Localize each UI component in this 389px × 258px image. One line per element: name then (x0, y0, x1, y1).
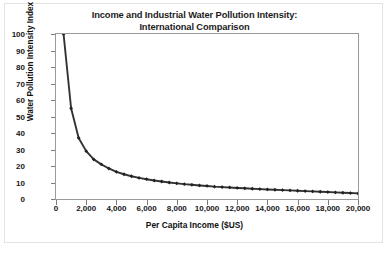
data-line (64, 34, 358, 193)
data-markers (62, 34, 358, 195)
data-point (228, 186, 232, 190)
chart-figure: Income and Industrial Water Pollution In… (4, 3, 383, 243)
y-axis-tick-mark (51, 150, 55, 151)
x-axis-tick-mark (358, 200, 359, 205)
x-axis-tick-mark (237, 200, 238, 205)
data-point (235, 186, 239, 190)
y-axis-tick-label: 20 (0, 162, 25, 171)
data-point (137, 176, 141, 180)
y-axis-tick-label: 0 (0, 195, 25, 204)
data-point (167, 181, 171, 185)
y-axis-tick-mark (51, 34, 55, 35)
data-point (250, 187, 254, 191)
data-point (220, 185, 224, 189)
chart-title: Income and Industrial Water Pollution In… (5, 10, 384, 33)
data-point (333, 191, 337, 195)
data-point (258, 187, 262, 191)
data-point (69, 106, 73, 110)
y-axis-tick-mark (51, 67, 55, 68)
y-axis-label: Water Pollution Intensity Index (26, 0, 35, 142)
x-axis-tick-mark (207, 200, 208, 205)
y-axis-tick-label: 80 (0, 63, 25, 72)
y-axis-tick-mark (51, 183, 55, 184)
y-axis-tick-mark (51, 84, 55, 85)
y-axis-tick-mark (51, 117, 55, 118)
data-point (311, 190, 315, 194)
x-axis-tick-mark (328, 200, 329, 205)
data-point (356, 191, 358, 195)
x-axis-tick-mark (116, 200, 117, 205)
y-axis-tick-mark (51, 100, 55, 101)
data-point (152, 179, 156, 183)
y-axis-tick-mark (51, 133, 55, 134)
data-point (288, 189, 292, 193)
y-axis-tick-mark (51, 51, 55, 52)
data-point (198, 184, 202, 188)
y-axis-tick-label: 60 (0, 96, 25, 105)
series-canvas (56, 34, 358, 199)
data-point (205, 184, 209, 188)
y-axis-tick-label: 40 (0, 129, 25, 138)
data-point (243, 186, 247, 190)
y-axis-tick-label: 90 (0, 46, 25, 55)
data-point (62, 34, 66, 36)
y-axis-tick-mark (51, 166, 55, 167)
x-axis-tick-mark (177, 200, 178, 205)
chart-title-line1: Income and Industrial Water Pollution In… (92, 10, 298, 20)
y-axis-tick-label: 70 (0, 79, 25, 88)
data-point (281, 188, 285, 192)
x-axis-tick-mark (298, 200, 299, 205)
data-point (326, 190, 330, 194)
data-point (303, 189, 307, 193)
data-point (296, 189, 300, 193)
y-axis-tick-label: 100 (0, 30, 25, 39)
data-point (266, 188, 270, 192)
x-axis-label: Per Capita Income ($US) (5, 220, 384, 230)
x-axis-tick-mark (86, 200, 87, 205)
chart-title-line2: International Comparison (5, 22, 384, 34)
y-axis-tick-label: 10 (0, 178, 25, 187)
data-point (190, 183, 194, 187)
data-point (318, 190, 322, 194)
y-axis-tick-mark (51, 199, 55, 200)
data-point (273, 188, 277, 192)
x-axis-tick-mark (56, 200, 57, 205)
data-point (160, 180, 164, 184)
plot-area (55, 33, 359, 200)
data-point (341, 191, 345, 195)
data-point (213, 185, 217, 189)
data-point (145, 177, 149, 181)
y-axis-tick-label: 30 (0, 145, 25, 154)
data-point (182, 182, 186, 186)
x-axis-tick-label: 20,000 (335, 204, 381, 213)
y-axis-tick-label: 50 (0, 112, 25, 121)
x-axis-tick-mark (267, 200, 268, 205)
data-point (349, 191, 353, 195)
data-point (175, 181, 179, 185)
x-axis-tick-mark (147, 200, 148, 205)
